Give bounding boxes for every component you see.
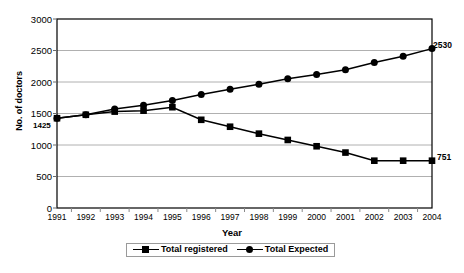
data-point-square [227,123,234,130]
data-point-circle [140,102,147,109]
data-point-circle [227,86,234,93]
x-tick-label-1996: 1996 [186,213,216,222]
x-tick-label-1995: 1995 [157,213,187,222]
data-point-circle [284,75,291,82]
legend-item-total-expected[interactable]: Total Expected [237,245,328,254]
x-tick-label-1993: 1993 [100,213,130,222]
data-point-circle [198,91,205,98]
start-value-label: 1425 [33,121,51,130]
x-tick-label-2001: 2001 [330,213,360,222]
x-tick-label-2000: 2000 [302,213,332,222]
data-point-square [313,143,320,150]
chart-legend: Total registered Total Expected [126,243,335,257]
data-point-circle [82,111,89,118]
x-tick-label-1997: 1997 [215,213,245,222]
data-point-square [169,104,176,111]
data-point-circle [342,66,349,73]
x-tick-label-1994: 1994 [129,213,159,222]
data-point-square [371,157,378,164]
data-point-square [342,149,349,156]
legend-label-total-expected: Total Expected [265,245,328,254]
circle-marker-icon [237,245,263,254]
x-tick-label-2003: 2003 [388,213,418,222]
data-point-square [284,137,291,144]
series-line [57,107,432,160]
legend-item-total-registered[interactable]: Total registered [133,245,228,254]
data-point-circle [371,59,378,66]
x-tick-label-1998: 1998 [244,213,274,222]
data-point-circle [313,71,320,78]
data-point-circle [54,115,61,122]
data-point-circle [400,53,407,60]
square-marker-icon [133,245,159,254]
x-tick-label-2002: 2002 [359,213,389,222]
x-axis-title: Year [0,227,464,238]
expected-end-label: 2530 [433,40,452,50]
data-point-circle [169,97,176,104]
x-tick-label-1999: 1999 [273,213,303,222]
legend-label-total-registered: Total registered [161,245,228,254]
data-series-layer [54,45,436,164]
data-point-square [198,117,205,124]
series-total-expected [54,45,436,122]
series-total-registered [54,104,436,164]
data-point-square [429,157,436,164]
data-point-square [256,130,263,137]
x-tick-label-1992: 1992 [71,213,101,222]
x-tick-label-2004: 2004 [417,213,447,222]
registered-end-label: 751 [437,152,451,162]
data-point-square [400,157,407,164]
x-tick-label-1991: 1991 [42,213,72,222]
line-chart: No. of doctors 3000 2500 2000 1500 1000 … [0,0,464,273]
data-point-circle [111,106,118,113]
data-point-circle [255,81,262,88]
